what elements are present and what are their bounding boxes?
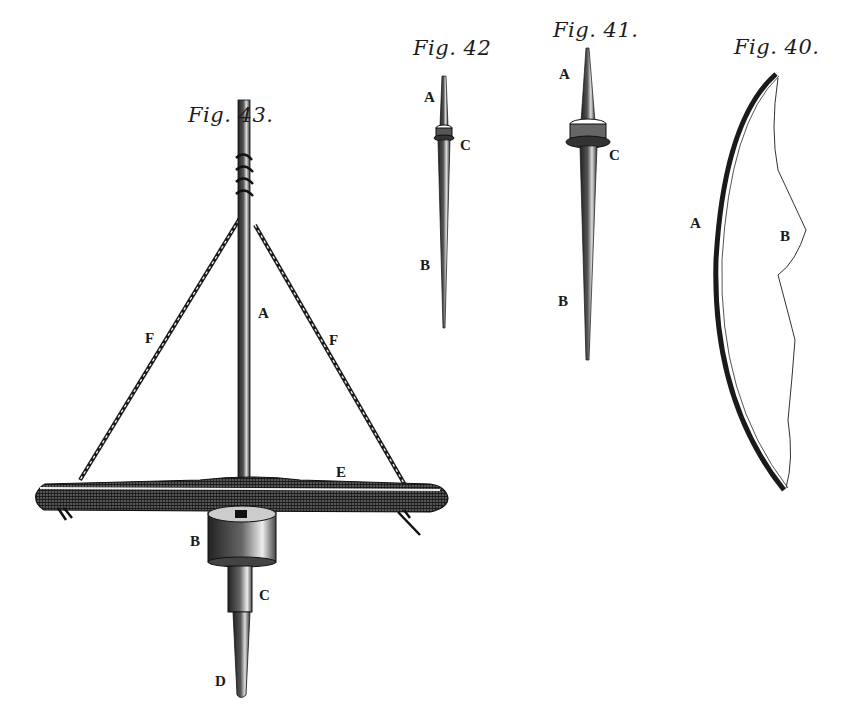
- plate-drawing: [0, 0, 847, 728]
- fig43-title: Fig. 43.: [188, 103, 273, 127]
- fig40-label-b: B: [780, 228, 790, 245]
- fig43-tip: [233, 612, 250, 698]
- fig42-drawing: [434, 76, 454, 328]
- fig41-drawing: [566, 48, 610, 360]
- fig41-label-c: C: [609, 147, 620, 164]
- fig40-string: [774, 78, 806, 488]
- fig43-rope-tail-right: [398, 510, 420, 535]
- fig42-title: Fig. 42: [413, 36, 491, 60]
- fig40-label-a: A: [690, 215, 701, 232]
- fig43-label-f-left: F: [145, 330, 154, 347]
- fig42-label-b: B: [420, 257, 430, 274]
- fig43-label-c: C: [259, 587, 270, 604]
- fig42-label-c: C: [460, 137, 471, 154]
- fig42-label-a: A: [424, 89, 435, 106]
- fig43-hub: [208, 506, 276, 567]
- fig43-drawing: [36, 100, 448, 698]
- fig43-label-e: E: [336, 464, 346, 481]
- fig43-tenon: [228, 566, 252, 612]
- fig43-label-b: B: [190, 533, 200, 550]
- fig43-label-a: A: [258, 305, 269, 322]
- fig43-label-d: D: [215, 673, 226, 690]
- fig43-label-f-right: F: [329, 332, 338, 349]
- fig43-rope-right: [255, 225, 405, 485]
- fig40-title: Fig. 40.: [734, 35, 819, 59]
- engraving-plate: Fig. 43. Fig. 42 Fig. 41. Fig. 40. A F F…: [0, 0, 847, 728]
- fig41-label-b: B: [558, 293, 568, 310]
- fig43-rope-left: [80, 205, 248, 480]
- fig41-label-a: A: [559, 66, 570, 83]
- fig43-shaft: [238, 100, 250, 488]
- fig41-title: Fig. 41.: [553, 18, 638, 42]
- fig40-drawing: [716, 74, 806, 490]
